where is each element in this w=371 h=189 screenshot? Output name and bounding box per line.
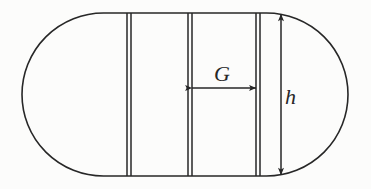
gap-dimension-group: G [192, 61, 256, 88]
figure-canvas: G h [0, 0, 371, 189]
gap-label-G: G [214, 61, 230, 86]
divider-lines-group [127, 13, 260, 176]
height-label-h: h [285, 84, 296, 109]
stadium-diagram: G h [0, 0, 371, 189]
stadium-outline [22, 13, 348, 176]
height-dimension-group: h [281, 14, 296, 175]
